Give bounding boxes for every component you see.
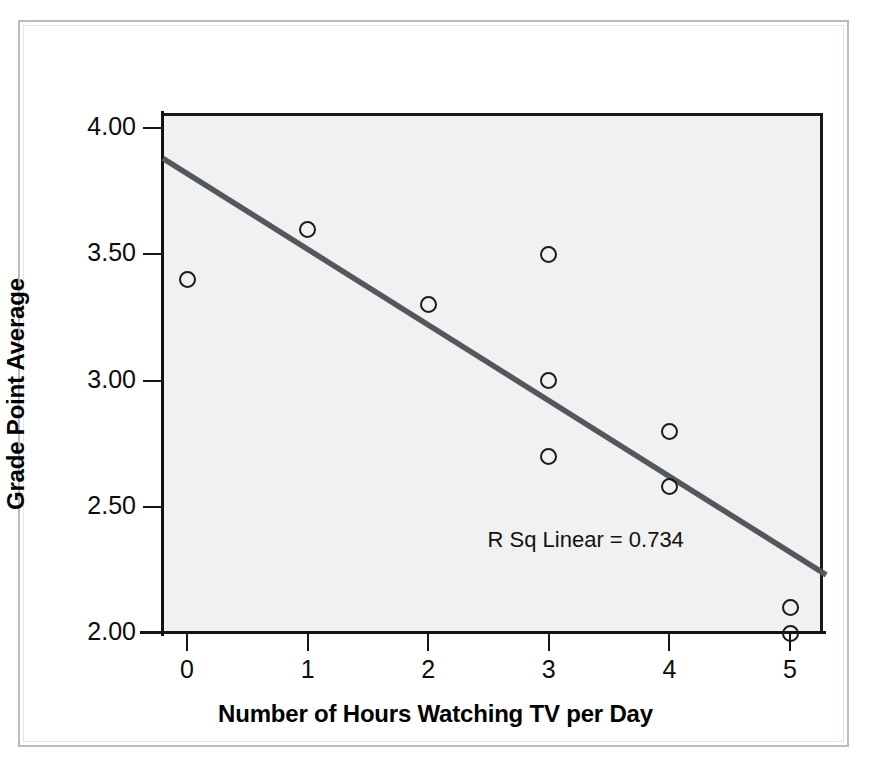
data-point-marker: [782, 625, 799, 642]
data-point-marker: [179, 271, 196, 288]
y-axis-line: [161, 111, 164, 636]
y-tick-label: 2.50: [87, 491, 136, 520]
y-tick-label: 3.50: [87, 238, 136, 267]
data-point-marker: [540, 246, 557, 263]
x-tick-mark: [186, 634, 188, 651]
x-tick-label: 0: [167, 655, 207, 684]
scatter-chart: 2.002.503.003.504.00 012345 R Sq Linear …: [0, 0, 871, 777]
x-tick-mark: [427, 634, 429, 651]
y-tick-mark: [143, 506, 162, 508]
y-tick-mark: [143, 380, 162, 382]
y-tick-mark: [143, 253, 162, 255]
plot-area: [163, 113, 823, 633]
data-point-marker: [661, 423, 678, 440]
x-axis-line: [140, 631, 826, 634]
x-tick-label: 5: [770, 655, 810, 684]
data-point-marker: [540, 448, 557, 465]
x-tick-mark: [548, 634, 550, 651]
y-axis-title: Grade Point Average: [2, 278, 30, 510]
y-tick-label: 3.00: [87, 365, 136, 394]
data-point-marker: [420, 296, 437, 313]
chart-page: 2.002.503.003.504.00 012345 R Sq Linear …: [0, 0, 871, 777]
x-tick-label: 3: [529, 655, 569, 684]
y-tick-label: 2.00: [87, 617, 136, 646]
x-tick-label: 2: [408, 655, 448, 684]
y-tick-mark: [143, 632, 162, 634]
x-tick-mark: [307, 634, 309, 651]
data-point-marker: [661, 478, 678, 495]
x-axis-title: Number of Hours Watching TV per Day: [0, 700, 871, 728]
data-point-marker: [299, 221, 316, 238]
y-tick-mark: [143, 127, 162, 129]
x-tick-mark: [668, 634, 670, 651]
y-tick-label: 4.00: [87, 112, 136, 141]
data-point-marker: [782, 599, 799, 616]
r-squared-annotation: R Sq Linear = 0.734: [488, 527, 684, 553]
x-tick-label: 1: [288, 655, 328, 684]
x-tick-label: 4: [649, 655, 689, 684]
y-axis-title-wrapper: Grade Point Average: [30, 180, 64, 510]
